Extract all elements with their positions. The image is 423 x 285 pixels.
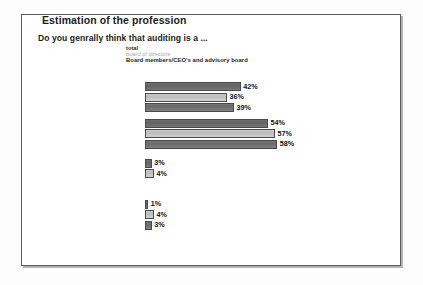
- bar: [145, 119, 268, 128]
- bar-row: 57%: [145, 129, 405, 138]
- bar: [145, 93, 227, 102]
- bar-row: 1%: [145, 200, 405, 209]
- bar-value-label: 42%: [243, 82, 257, 92]
- bar: [145, 103, 234, 112]
- bar-row: 58%: [145, 140, 405, 149]
- bar-row: 4%: [145, 169, 405, 178]
- bar-value-label: 4%: [157, 169, 167, 179]
- bar-row: 36%: [145, 93, 405, 102]
- bar-value-label: 1%: [151, 199, 161, 209]
- bar-value-label: 39%: [236, 103, 250, 113]
- bar: [145, 169, 154, 178]
- bar-row: 42%: [145, 82, 405, 91]
- bar-row: 3%: [145, 159, 405, 168]
- bar-value-label: 58%: [280, 139, 294, 149]
- bar-value-label: 4%: [157, 210, 167, 220]
- bar: [145, 140, 277, 149]
- bar-row: 3%: [145, 221, 405, 230]
- bar-value-label: 57%: [277, 129, 291, 139]
- bar: [145, 210, 154, 219]
- bar: [145, 159, 152, 168]
- bar: [145, 221, 152, 230]
- bar-value-label: 54%: [271, 118, 285, 128]
- bar: [145, 200, 148, 209]
- bar-row: 54%: [145, 119, 405, 128]
- bar-value-label: 3%: [154, 158, 164, 168]
- bar-row: 39%: [145, 103, 405, 112]
- bar-value-label: 36%: [230, 92, 244, 102]
- bar-row: 4%: [145, 210, 405, 219]
- bar-chart-plot: ... modern profession, that hasrecognise…: [0, 0, 423, 285]
- bar-value-label: 3%: [154, 220, 164, 230]
- bar: [145, 129, 275, 138]
- bar: [145, 82, 241, 91]
- slide-canvas: Estimation of the profession Do you genr…: [0, 0, 423, 285]
